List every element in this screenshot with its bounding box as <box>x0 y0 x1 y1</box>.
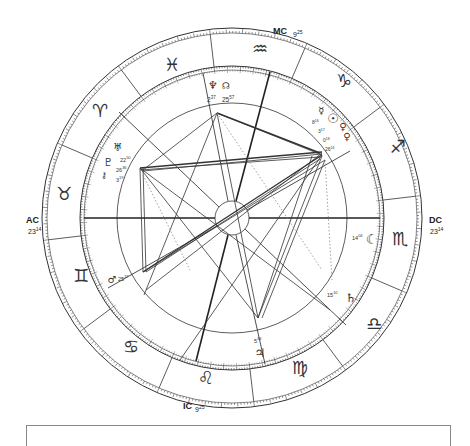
mercury-degree: 816 <box>312 119 319 125</box>
sign-virgo-icon: ♍ <box>292 357 308 378</box>
saturn-degree: 1510 <box>327 290 338 298</box>
aspect-line-dotted <box>325 160 332 280</box>
house-cusp-12 <box>119 112 219 207</box>
sign-libra-icon: ♎ <box>366 313 382 334</box>
ac-degree: 2314 <box>28 227 41 235</box>
sign-capricorn-icon: ♑ <box>336 70 352 91</box>
pluto-degree: 2636 <box>116 165 127 173</box>
aspect-line <box>258 156 312 318</box>
neptune-icon: ♆ <box>208 79 218 92</box>
mars-icon: ♂ <box>108 274 117 285</box>
sun-icon: ☉ <box>327 111 339 126</box>
neptune-degree: 237 <box>207 95 216 103</box>
aspect-line <box>217 113 320 153</box>
sign-aries-icon: ♈ <box>92 100 108 121</box>
aspect-line <box>140 168 143 272</box>
uranus-degree: 2250 <box>120 155 131 163</box>
node-degree: 2557 <box>222 95 235 103</box>
aspect-line <box>140 157 320 170</box>
ic-degree: 925 <box>195 405 204 413</box>
sign-aquarius-icon: ♒ <box>252 38 268 59</box>
ic-label: IC <box>183 402 192 411</box>
aspect-line <box>144 113 217 295</box>
aspect-line <box>258 156 322 318</box>
sign-pisces-icon: ♓ <box>164 54 180 75</box>
jupiter-degree: 534 <box>254 336 262 344</box>
mars-degree: 2537 <box>118 274 129 282</box>
moon-degree: 1404 <box>352 233 363 241</box>
aspect-line <box>143 168 146 272</box>
mc-degree: 925 <box>293 30 302 38</box>
mc-label: MC <box>273 27 287 36</box>
sign-sagittarius-icon: ♐ <box>390 136 406 157</box>
sun-degree: 317 <box>318 128 325 134</box>
sign-scorpio-icon: ♏ <box>392 228 408 249</box>
dc-degree: 2314 <box>430 227 443 235</box>
sign-taurus-icon: ♉ <box>56 183 72 204</box>
aspect-line <box>143 154 322 171</box>
venus-cluster-icon: ♀ <box>343 131 350 142</box>
pluto-icon: ♇ <box>103 156 113 169</box>
dc-label: DC <box>429 216 442 225</box>
north-node-icon: ☊ <box>222 81 230 91</box>
sign-cancer-icon: ♋ <box>123 336 139 357</box>
aspect-line <box>180 155 322 360</box>
house-cusp-11 <box>203 73 228 201</box>
venus-degree: 018 <box>323 137 330 143</box>
uranus-icon: ♅ <box>113 141 123 154</box>
ac-label: AC <box>26 216 39 225</box>
aspect-lines <box>140 113 330 360</box>
aspect-line <box>143 160 325 272</box>
aspect-line <box>140 152 322 168</box>
mercury-icon: ☿ <box>318 105 324 116</box>
sign-gemini-icon: ♊ <box>73 265 89 286</box>
moon-icon: ☾ <box>366 231 379 247</box>
saturn-icon: ♄ <box>346 291 357 305</box>
aspect-line <box>146 159 320 272</box>
chart-info-box <box>26 425 451 446</box>
sign-leo-icon: ♌ <box>198 367 214 388</box>
chiron-icon: ⚷ <box>101 170 108 180</box>
aspect-line <box>146 153 322 290</box>
aspect-line <box>143 155 322 272</box>
mc-ic-axis <box>236 72 270 201</box>
venus-cluster-degree: 2616 <box>325 146 335 152</box>
jupiter-icon: ♃ <box>255 346 266 360</box>
